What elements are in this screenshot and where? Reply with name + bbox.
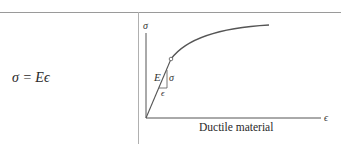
- hookes-law-formula: σ = Eϵ: [12, 70, 50, 86]
- y-axis-label: σ: [143, 20, 149, 31]
- run-label: ϵ: [161, 88, 165, 98]
- hardening-curve: [171, 25, 269, 59]
- diagram-caption: Ductile material: [199, 121, 273, 133]
- proportional-limit-marker: [169, 57, 173, 61]
- rise-label: σ: [169, 72, 175, 83]
- elastic-line: [146, 59, 171, 118]
- modulus-label: E: [153, 71, 161, 83]
- x-axis-label: ϵ: [324, 112, 329, 123]
